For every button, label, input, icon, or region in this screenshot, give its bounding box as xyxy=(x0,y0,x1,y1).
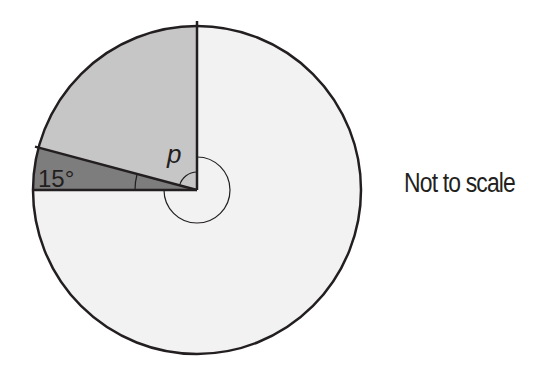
label-15-degrees: 15° xyxy=(38,165,74,192)
not-to-scale-note: Not to scale xyxy=(404,168,515,199)
label-p: p xyxy=(166,139,181,169)
